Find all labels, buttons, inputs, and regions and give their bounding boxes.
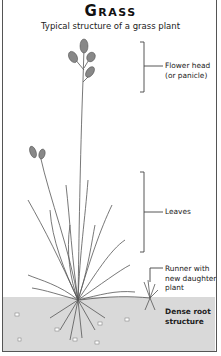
label-root-structure: Dense root structure — [165, 307, 211, 326]
label-leaves: Leaves — [165, 207, 191, 217]
grass-plant-illustration — [0, 0, 221, 356]
label-flower-head-line1: Flower head — [165, 61, 210, 71]
label-runner-line3: plant — [165, 283, 216, 293]
label-runner-line1: Runner with — [165, 264, 216, 274]
label-roots-line1: Dense root — [165, 307, 211, 317]
label-flower-head-line2: (or panicle) — [165, 71, 210, 81]
label-runner: Runner with new daughter plant — [165, 264, 216, 293]
label-runner-line2: new daughter — [165, 274, 216, 284]
label-roots-line2: structure — [165, 317, 211, 327]
label-flower-head: Flower head (or panicle) — [165, 61, 210, 80]
